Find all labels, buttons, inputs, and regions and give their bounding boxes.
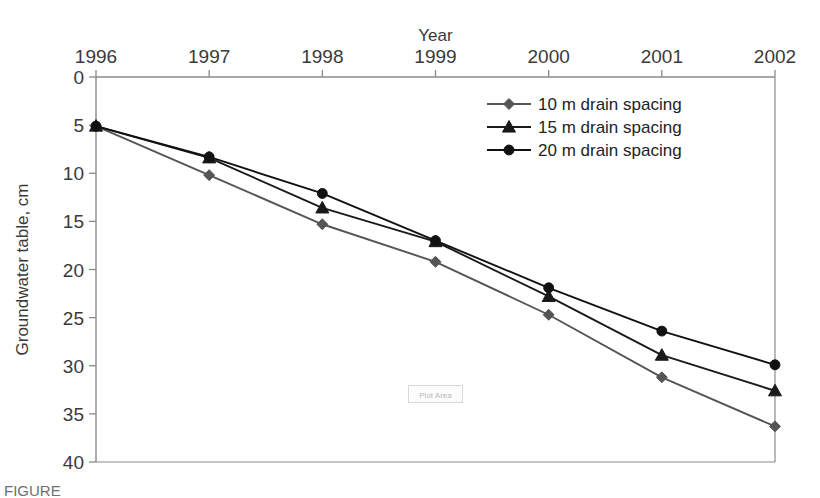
data-point-marker [316, 201, 329, 213]
y-axis-tick-label: 30 [63, 356, 84, 377]
figure-container: 1996199719981999200020012002Year05101520… [0, 0, 820, 498]
groundwater-table-line-chart: 1996199719981999200020012002Year05101520… [0, 0, 820, 498]
y-axis-tick-label: 15 [63, 211, 84, 232]
legend-label: 20 m drain spacing [538, 141, 682, 160]
y-axis-tick-label: 20 [63, 260, 84, 281]
y-axis-title: Groundwater table, cm [13, 184, 32, 356]
data-point-marker [655, 349, 668, 361]
data-point-marker [544, 283, 554, 293]
x-axis-tick-label: 2001 [641, 46, 683, 67]
chart-legend: 10 m drain spacing15 m drain spacing20 m… [487, 95, 682, 160]
data-point-marker [770, 421, 781, 432]
x-axis-title: Year [418, 26, 453, 45]
legend-item[interactable]: 10 m drain spacing [487, 95, 682, 114]
series-1 [91, 121, 781, 432]
data-point-marker [656, 372, 667, 383]
x-axis: 1996199719981999200020012002 [75, 46, 796, 77]
plot-area-tooltip: Plot Area [409, 386, 463, 403]
plot-area-tooltip-label: Plot Area [419, 391, 452, 400]
data-point-marker [657, 326, 667, 336]
x-axis-tick-label: 2000 [528, 46, 570, 67]
y-axis-tick-label: 10 [63, 163, 84, 184]
data-point-marker [543, 309, 554, 320]
y-axis-tick-label: 35 [63, 404, 84, 425]
data-point-marker [770, 360, 780, 370]
legend-label: 10 m drain spacing [538, 95, 682, 114]
data-point-marker [317, 219, 328, 230]
figure-caption: FIGURE [4, 482, 61, 498]
x-axis-tick-label: 1997 [188, 46, 230, 67]
data-point-marker [204, 152, 214, 162]
y-axis-tick-label: 5 [73, 115, 84, 136]
x-axis-tick-label: 1998 [301, 46, 343, 67]
y-axis-tick-label: 40 [63, 452, 84, 473]
x-axis-tick-label: 1999 [414, 46, 456, 67]
x-axis-tick-label: 1996 [75, 46, 117, 67]
data-point-marker [91, 121, 101, 131]
y-axis-tick-label: 0 [73, 67, 84, 88]
legend-item[interactable]: 20 m drain spacing [487, 141, 682, 160]
legend-marker [504, 145, 514, 155]
y-axis-tick-label: 25 [63, 308, 84, 329]
data-point-marker [204, 170, 215, 181]
data-point-marker [430, 256, 441, 267]
chart-series-group [90, 120, 782, 432]
legend-label: 15 m drain spacing [538, 118, 682, 137]
data-point-marker [317, 189, 327, 199]
legend-marker [504, 99, 515, 110]
data-point-marker [431, 236, 441, 246]
series-line [96, 126, 775, 426]
legend-item[interactable]: 15 m drain spacing [487, 118, 682, 137]
x-axis-tick-label: 2002 [754, 46, 796, 67]
